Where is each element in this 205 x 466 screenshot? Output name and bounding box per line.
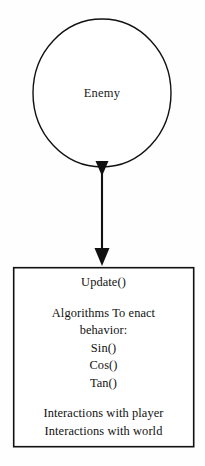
behavior-interactions-group: Interactions with player Interactions wi… xyxy=(43,405,163,440)
behavior-line-update: Update() xyxy=(81,274,126,292)
connector-arrowhead-upper xyxy=(96,161,109,176)
behavior-algorithms-group: Algorithms To enact behavior: Sin() Cos(… xyxy=(52,305,155,393)
behavior-line-interactions-player: Interactions with player xyxy=(43,405,163,423)
enemy-circle-shape xyxy=(33,19,171,167)
behavior-line-sin: Sin() xyxy=(91,340,116,358)
behavior-line-cos: Cos() xyxy=(89,357,117,375)
behavior-line-tan: Tan() xyxy=(90,375,117,393)
behavior-line-behavior: behavior: xyxy=(80,322,128,340)
diagram-canvas: Enemy Update() Algorithms To enact behav… xyxy=(0,0,205,466)
behavior-line-interactions-world: Interactions with world xyxy=(45,423,163,441)
behavior-node[interactable]: Update() Algorithms To enact behavior: S… xyxy=(13,267,194,447)
behavior-line-algorithms: Algorithms To enact xyxy=(52,305,155,323)
connector-arrowhead-lower xyxy=(95,248,110,266)
